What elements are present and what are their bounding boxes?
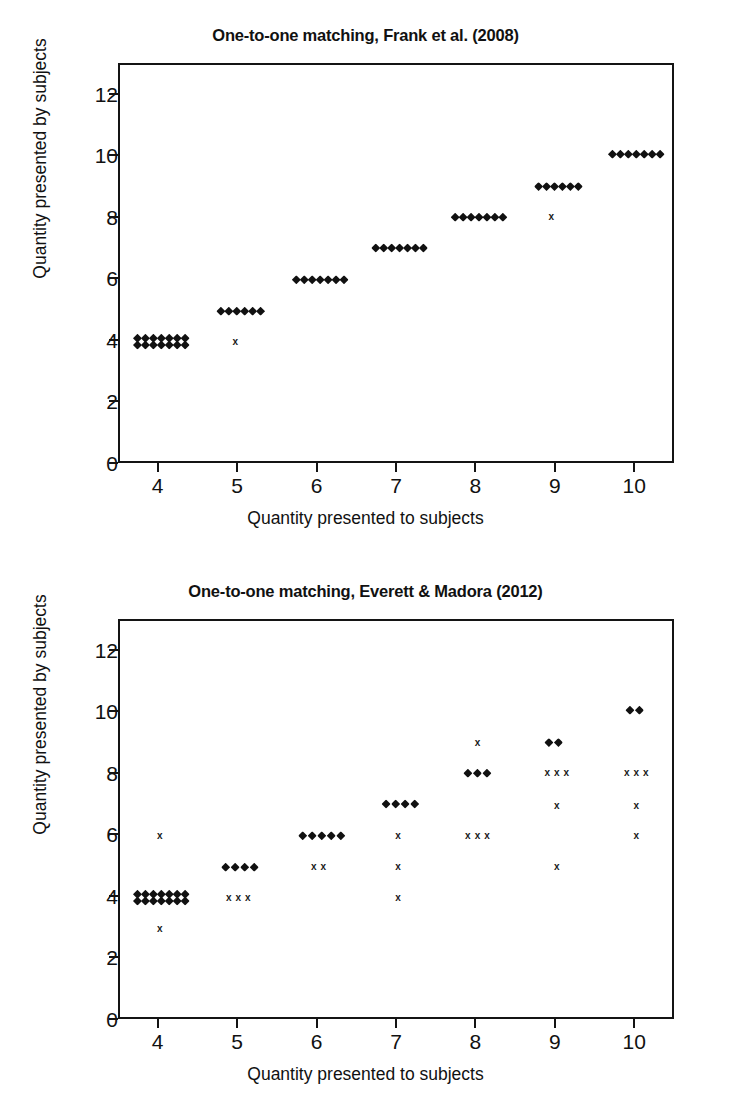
y-tick-labels: 024681012: [64, 619, 118, 1019]
x-marker: x: [634, 801, 640, 811]
chart-panel-frank-2008: One-to-one matching, Frank et al. (2008)…: [0, 0, 731, 556]
diamond-marker: [371, 244, 380, 253]
diamond-marker: [339, 275, 348, 284]
chart-title: One-to-one matching, Everett & Madora (2…: [0, 582, 731, 601]
plot-frame: xxxxxxxxxxxxxxxxxxxxxxxx: [118, 619, 674, 1019]
y-tick-mark: [109, 895, 118, 897]
y-tick-labels: 024681012: [64, 63, 118, 463]
x-marker: x: [564, 768, 570, 778]
x-marker: x: [157, 924, 163, 934]
y-axis-label: Quantity presented by subjects: [30, 515, 51, 915]
diamond-marker: [608, 150, 617, 159]
x-tick-label: 8: [453, 474, 497, 498]
diamond-marker: [574, 182, 583, 191]
x-tick-label: 10: [612, 474, 656, 498]
x-tick-label: 5: [215, 474, 259, 498]
diamond-marker: [173, 341, 182, 350]
x-tick-label: 7: [374, 1030, 418, 1054]
diamond-marker: [542, 182, 551, 191]
diamond-marker: [232, 307, 241, 316]
x-marker: x: [554, 801, 560, 811]
diamond-marker: [554, 738, 563, 747]
diamond-marker: [173, 897, 182, 906]
diamond-marker: [231, 863, 240, 872]
diamond-marker: [640, 150, 649, 159]
x-tick-mark: [157, 1019, 159, 1028]
diamond-marker: [240, 307, 249, 316]
x-marker: x: [484, 831, 490, 841]
x-tick-mark: [236, 463, 238, 472]
plot-frame: xx: [118, 63, 674, 463]
x-marker: x: [634, 831, 640, 841]
diamond-marker: [157, 897, 166, 906]
x-tick-mark: [316, 1019, 318, 1028]
diamond-marker: [395, 244, 404, 253]
diamond-marker: [566, 182, 575, 191]
diamond-marker: [544, 738, 553, 747]
chart-panel-everett-madora-2012: One-to-one matching, Everett & Madora (2…: [0, 556, 731, 1113]
x-marker: x: [321, 862, 327, 872]
diamond-marker: [141, 897, 150, 906]
diamond-marker: [324, 275, 333, 284]
y-tick-mark: [109, 772, 118, 774]
diamond-marker: [387, 244, 396, 253]
diamond-marker: [482, 213, 491, 222]
diamond-marker: [336, 831, 345, 840]
x-axis-label: Quantity presented to subjects: [0, 1064, 731, 1085]
diamond-marker: [316, 275, 325, 284]
diamond-marker: [624, 150, 633, 159]
diamond-marker: [411, 244, 420, 253]
x-marker: x: [554, 768, 560, 778]
x-marker: x: [311, 862, 317, 872]
diamond-marker: [141, 341, 150, 350]
diamond-marker: [625, 706, 634, 715]
x-tick-mark: [474, 463, 476, 472]
x-tick-labels: 45678910: [118, 474, 674, 504]
x-marker: x: [226, 893, 232, 903]
diamond-marker: [221, 863, 230, 872]
x-tick-marks: [118, 463, 674, 473]
diamond-marker: [648, 150, 657, 159]
diamond-marker: [490, 213, 499, 222]
x-tick-mark: [316, 463, 318, 472]
x-tick-label: 9: [533, 474, 577, 498]
x-tick-label: 4: [136, 1030, 180, 1054]
diamond-marker: [216, 307, 225, 316]
diamond-marker: [401, 800, 410, 809]
diamond-marker: [240, 863, 249, 872]
diamond-marker: [475, 213, 484, 222]
diamond-marker: [558, 182, 567, 191]
y-tick-mark: [109, 216, 118, 218]
diamond-marker: [149, 341, 158, 350]
diamond-marker: [534, 182, 543, 191]
x-tick-label: 6: [295, 1030, 339, 1054]
diamond-marker: [656, 150, 665, 159]
y-tick-mark: [109, 1018, 118, 1020]
x-marker: x: [475, 738, 481, 748]
diamond-marker: [149, 897, 158, 906]
diamond-marker: [133, 341, 142, 350]
diamond-marker: [308, 275, 317, 284]
x-tick-label: 8: [453, 1030, 497, 1054]
diamond-marker: [616, 150, 625, 159]
figure-page: One-to-one matching, Frank et al. (2008)…: [0, 0, 731, 1113]
diamond-marker: [379, 244, 388, 253]
diamond-marker: [632, 150, 641, 159]
x-tick-marks: [118, 1019, 674, 1029]
diamond-marker: [635, 706, 644, 715]
x-marker: x: [643, 768, 649, 778]
x-tick-mark: [395, 463, 397, 472]
diamond-marker: [382, 800, 391, 809]
diamond-marker: [332, 275, 341, 284]
x-tick-mark: [474, 1019, 476, 1028]
y-tick-mark: [109, 956, 118, 958]
x-marker: x: [236, 893, 242, 903]
diamond-marker: [550, 182, 559, 191]
diamond-marker: [327, 831, 336, 840]
x-tick-label: 5: [215, 1030, 259, 1054]
x-marker: x: [395, 893, 401, 903]
x-tick-label: 7: [374, 474, 418, 498]
y-tick-mark: [109, 462, 118, 464]
diamond-marker: [181, 341, 190, 350]
plot-area: xx: [120, 65, 672, 461]
